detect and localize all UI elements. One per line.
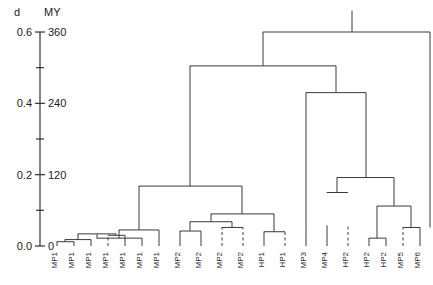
tick-label-d: 0.2: [17, 169, 32, 181]
leaf-label: MP1: [101, 251, 110, 268]
tick-label-d: 0.6: [17, 26, 32, 38]
tick-label-d: 0.0: [17, 240, 32, 252]
dendrogram-figure: d MY 0.000.21200.42400.6360 MP1MP1MP1MP1…: [0, 0, 433, 285]
tree-branches: [57, 11, 430, 246]
leaf-label: HP2: [379, 251, 388, 267]
tick-label-my: 240: [48, 97, 66, 109]
leaf-label: MP1: [118, 251, 127, 268]
leaf-label: MP2: [173, 251, 182, 268]
leaf-label: HP2: [341, 251, 350, 267]
leaf-label: MP6: [413, 251, 422, 268]
leaf-label: MP1: [50, 251, 59, 268]
tick-label-my: 120: [48, 169, 66, 181]
tree-canvas: 0.000.21200.42400.6360 MP1MP1MP1MP1MP1MP…: [0, 0, 433, 285]
leaf-label: HP1: [278, 251, 287, 267]
tick-label-d: 0.4: [17, 97, 32, 109]
leaf-label: MP2: [236, 251, 245, 268]
y-axis: 0.000.21200.42400.6360: [17, 26, 67, 252]
leaf-label: MP1: [67, 251, 76, 268]
leaf-label: MP5: [396, 251, 405, 268]
leaf-label: MP1: [152, 251, 161, 268]
leaf-labels: MP1MP1MP1MP1MP1MP1MP1MP2MP2MP2MP2HP1HP1M…: [50, 251, 422, 268]
leaf-label: HP1: [257, 251, 266, 267]
leaf-label: MP1: [135, 251, 144, 268]
leaf-label: MP4: [320, 251, 329, 268]
leaf-label: MP3: [299, 251, 308, 268]
leaf-label: HP2: [362, 251, 371, 267]
leaf-label: MP2: [215, 251, 224, 268]
leaf-label: MP2: [194, 251, 203, 268]
leaf-label: MP1: [84, 251, 93, 268]
tick-label-my: 360: [48, 26, 66, 38]
tick-label-my: 0: [48, 240, 54, 252]
